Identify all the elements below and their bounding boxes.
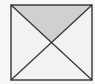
square-diagonals-diagram bbox=[0, 0, 95, 84]
